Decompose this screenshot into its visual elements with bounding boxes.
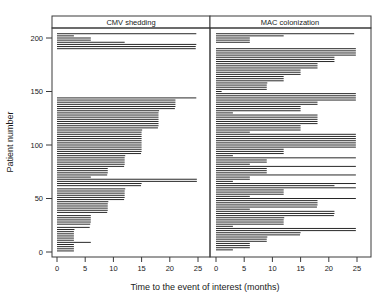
strip-label-mac: MAC colonization (261, 18, 319, 27)
strip-label-cmv: CMV shedding (106, 18, 155, 27)
x-axis-title: Time to the event of interest (months) (130, 282, 279, 292)
x-tick-label: 5 (83, 264, 87, 273)
y-tick-label: 200 (30, 34, 43, 43)
x-tick-label: 0 (55, 264, 59, 273)
x-tick-label: 15 (137, 264, 145, 273)
y-tick-label: 100 (30, 141, 43, 150)
x-tick-label: 10 (268, 264, 276, 273)
event-chart-figure: CMV shedding MAC colonization 0501001502… (0, 0, 387, 298)
x-tick-label: 20 (166, 264, 174, 273)
plot-canvas: CMV shedding MAC colonization 0501001502… (0, 0, 387, 298)
x-tick-label: 20 (325, 264, 333, 273)
x-tick-label: 25 (353, 264, 361, 273)
x-tick-label: 25 (194, 264, 202, 273)
x-tick-label: 0 (214, 264, 218, 273)
y-axis-title: Patient number (5, 111, 15, 172)
y-tick-label: 150 (30, 87, 43, 96)
y-tick-label: 50 (35, 194, 43, 203)
x-tick-label: 5 (242, 264, 246, 273)
x-tick-label: 10 (109, 264, 117, 273)
x-tick-label: 15 (296, 264, 304, 273)
y-tick-label: 0 (39, 248, 43, 257)
